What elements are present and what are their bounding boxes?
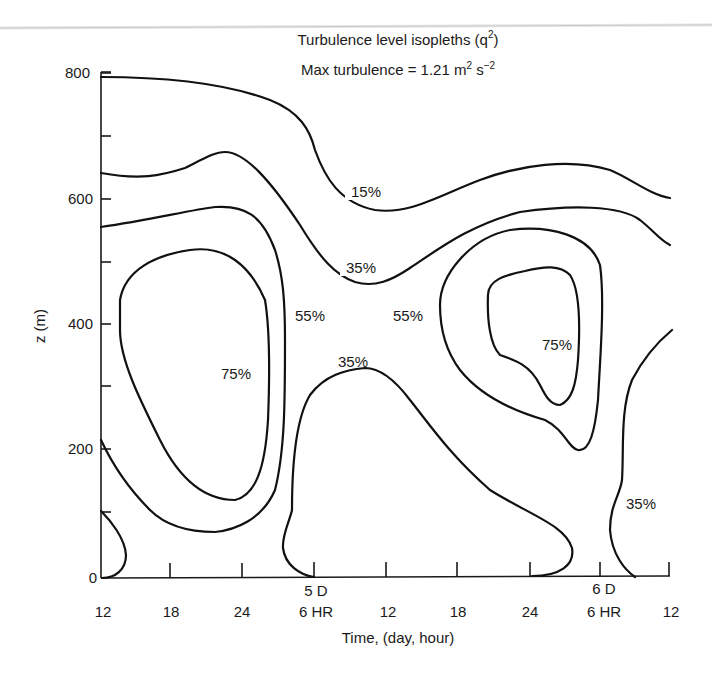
svg-text:12: 12 — [95, 603, 112, 620]
svg-text:75%: 75% — [221, 365, 251, 382]
svg-text:55%: 55% — [295, 307, 325, 324]
svg-text:200: 200 — [68, 440, 93, 457]
svg-text:800: 800 — [65, 64, 90, 81]
svg-text:75%: 75% — [542, 336, 572, 353]
y-axis-label: z (m) — [31, 309, 48, 343]
contour-chart: Turbulence level isopleths (q2) Max turb… — [0, 0, 712, 676]
svg-text:18: 18 — [450, 603, 467, 620]
svg-text:24: 24 — [522, 603, 539, 620]
svg-text:24: 24 — [234, 603, 251, 620]
day-marker-6: 6 D — [592, 580, 616, 597]
svg-text:6 HR: 6 HR — [299, 603, 333, 620]
svg-text:35%: 35% — [346, 259, 376, 276]
day-marker-5: 5 D — [304, 582, 328, 599]
svg-text:18: 18 — [163, 603, 180, 620]
svg-text:12: 12 — [380, 603, 397, 620]
x-tick-labels: 12 18 24 6 HR 12 18 24 6 HR 12 5 D 6 D — [95, 580, 680, 620]
y-tick-labels: 800 600 400 200 0 — [65, 64, 97, 586]
svg-text:600: 600 — [68, 190, 93, 207]
svg-text:55%: 55% — [393, 307, 423, 324]
contour-35-center — [283, 368, 572, 577]
contour-labels: 15% 35% 55% 55% 75% 35% 75% 35% — [221, 182, 656, 512]
axes — [101, 72, 670, 578]
contour-55-right — [440, 229, 602, 450]
svg-text:0: 0 — [89, 569, 97, 586]
svg-text:12: 12 — [663, 603, 680, 620]
chart-subtitle: Max turbulence = 1.21 m2 s−2 — [301, 60, 496, 78]
contour-35-upper-left — [101, 152, 670, 284]
contour-15-top — [101, 77, 670, 211]
contour-lines — [101, 77, 672, 578]
svg-text:400: 400 — [68, 315, 93, 332]
svg-text:6 HR: 6 HR — [587, 603, 621, 620]
contour-35-right — [610, 330, 672, 577]
x-axis-label: Time, (day, hour) — [342, 629, 455, 646]
svg-text:35%: 35% — [626, 495, 656, 512]
contour-35-corner — [101, 511, 126, 578]
chart-title: Turbulence level isopleths (q2) — [298, 29, 499, 48]
svg-text:15%: 15% — [351, 183, 381, 200]
svg-text:35%: 35% — [338, 353, 368, 370]
